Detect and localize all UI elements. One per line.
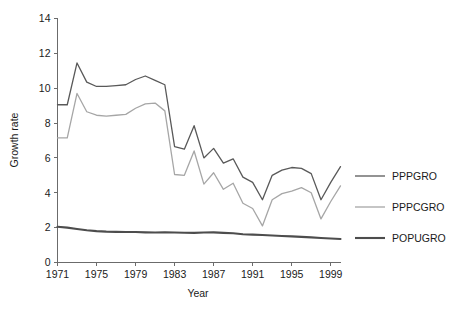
legend-label-pppgro: PPPGRO [392, 170, 437, 182]
y-tick-label: 6 [45, 152, 51, 164]
x-tick-label: 1971 [46, 268, 70, 280]
series-line-pppcgro [58, 93, 341, 225]
x-tick-label: 1995 [280, 268, 304, 280]
x-tick-label: 1975 [85, 268, 109, 280]
data-series [58, 63, 341, 239]
y-tick-label: 0 [45, 256, 51, 268]
chart-legend: PPPGROPPPCGROPOPUGRO [355, 170, 446, 244]
series-line-pppgro [58, 63, 341, 200]
x-tick-label: 1979 [124, 268, 148, 280]
y-tick-label: 8 [45, 117, 51, 129]
x-tick-label: 1999 [319, 268, 343, 280]
y-tick-label: 12 [39, 47, 51, 59]
legend-label-pppcgro: PPPCGRO [392, 201, 445, 213]
line-chart: 19711975197919831987199119951999 0246810… [0, 0, 464, 310]
y-tick-label: 4 [45, 187, 51, 199]
y-tick-label: 2 [45, 221, 51, 233]
legend-label-popugro: POPUGRO [392, 232, 446, 244]
y-axis-ticks: 02468101214 [39, 12, 58, 268]
y-axis-label: Growth rate [8, 112, 20, 167]
x-axis-label: Year [187, 287, 209, 299]
x-tick-label: 1987 [202, 268, 226, 280]
chart-figure: 19711975197919831987199119951999 0246810… [0, 0, 464, 310]
x-tick-label: 1991 [241, 268, 265, 280]
y-tick-label: 14 [39, 12, 51, 24]
y-tick-label: 10 [39, 82, 51, 94]
x-tick-label: 1983 [163, 268, 187, 280]
series-line-popugro [58, 227, 341, 239]
x-axis-ticks: 19711975197919831987199119951999 [46, 263, 343, 280]
